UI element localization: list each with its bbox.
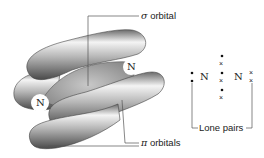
right-lone-x-2: ×: [249, 77, 253, 84]
lewis-n-left: N: [200, 71, 209, 82]
right-lone-x-1: ×: [249, 69, 253, 76]
shared-x-3: ×: [219, 94, 223, 101]
atom-n-left: N: [36, 97, 45, 108]
lewis-n-right: N: [234, 71, 243, 82]
atom-n-right: N: [127, 61, 136, 72]
lone-pairs-label: Lone pairs: [199, 122, 243, 133]
pi-orbitals-label: π orbitals: [141, 137, 181, 148]
sigma-orbital-label: σ orbital: [141, 10, 176, 21]
lone-pair-leader-right: [246, 83, 252, 128]
lone-pair-leader-left: [192, 83, 198, 128]
n2-orbital-diagram: [0, 0, 264, 158]
shared-x-2: ×: [219, 77, 223, 84]
shared-x-1: ×: [219, 60, 223, 67]
